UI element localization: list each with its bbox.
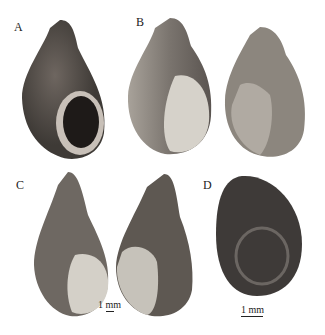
shell-b-apertural: [125, 16, 215, 156]
shell-b-abapertural: [220, 25, 310, 160]
panel-label-c: C: [16, 178, 24, 193]
scale-bar-label-c: 1 mm: [98, 299, 121, 310]
panel-label-d: D: [203, 178, 212, 193]
operculum-d: [212, 174, 304, 300]
shell-a: [18, 18, 108, 163]
shell-c-abapertural: [112, 172, 197, 320]
scale-bar-d: [241, 316, 263, 317]
scale-bar-label-d: 1 mm: [241, 304, 264, 315]
scale-bar-c: [106, 311, 114, 312]
shell-c-apertural: [30, 170, 115, 320]
shell-figure: A B C 1 mm D 1 mm: [0, 0, 325, 335]
